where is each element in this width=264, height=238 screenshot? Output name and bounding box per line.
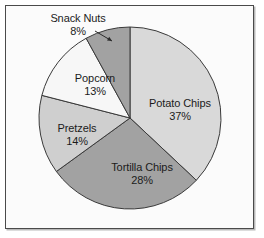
slice-label-value: 13% [75, 85, 115, 98]
slice-label-name: Pretzels [58, 122, 97, 135]
pie-chart-figure: Potato Chips 37% Tortilla Chips 28% Pret… [0, 0, 264, 238]
slice-label-potato-chips: Potato Chips 37% [149, 97, 211, 122]
slice-label-value: 37% [149, 110, 211, 123]
pie-chart-canvas [0, 0, 264, 238]
slice-label-name: Tortilla Chips [111, 161, 173, 174]
slice-label-value: 8% [50, 25, 105, 38]
slice-label-name: Potato Chips [149, 97, 211, 110]
slice-label-tortilla-chips: Tortilla Chips 28% [111, 161, 173, 186]
slice-label-snack-nuts: Snack Nuts 8% [50, 12, 105, 37]
slice-label-value: 14% [58, 135, 97, 148]
slice-label-pretzels: Pretzels 14% [58, 122, 97, 147]
slice-label-name: Snack Nuts [50, 12, 105, 25]
slice-label-value: 28% [111, 174, 173, 187]
slice-label-name: Popcorn [75, 72, 115, 85]
slice-label-popcorn: Popcorn 13% [75, 72, 115, 97]
